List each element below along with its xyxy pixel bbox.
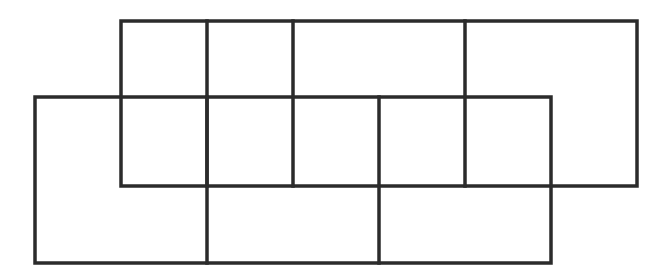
overlapping-rectangles-diagram xyxy=(0,0,670,278)
background xyxy=(0,0,670,278)
diagram-svg xyxy=(0,0,670,278)
